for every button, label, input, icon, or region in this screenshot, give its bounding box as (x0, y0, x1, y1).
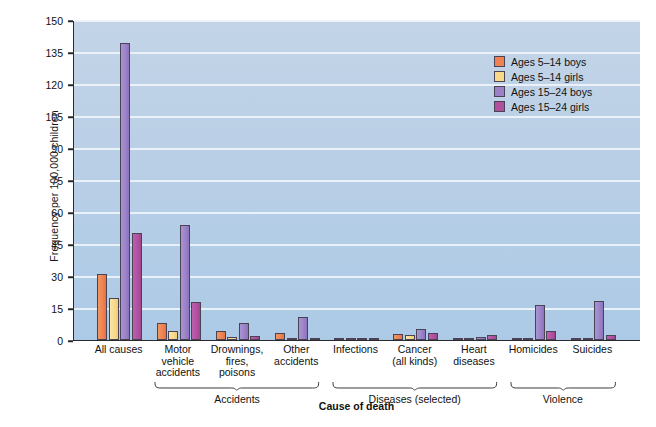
bar (606, 335, 616, 340)
bar (180, 225, 190, 340)
bar-group (216, 21, 261, 340)
y-axis-tick-label: 45 (51, 239, 63, 251)
bar-group (453, 21, 498, 340)
bar (287, 338, 297, 340)
legend-item-label: Ages 5–14 girls (511, 71, 583, 83)
legend-item[interactable]: Ages 15–24 boys (494, 85, 592, 98)
y-axis-tick-label: 150 (45, 15, 63, 27)
legend-swatch-icon (494, 56, 505, 67)
legend-swatch-icon (494, 86, 505, 97)
bar (227, 337, 237, 340)
bar (97, 274, 107, 340)
bar-group (275, 21, 320, 340)
bar (191, 302, 201, 340)
y-axis-tick-label: 105 (45, 111, 63, 123)
bar (298, 317, 308, 340)
chart-legend: Ages 5–14 boysAges 5–14 girlsAges 15–24 … (494, 55, 592, 113)
bar (168, 331, 178, 340)
group-bracket: Violence (510, 382, 616, 391)
legend-item-label: Ages 15–24 girls (511, 101, 589, 113)
group-bracket: Diseases (selected) (332, 382, 498, 391)
bar (512, 338, 522, 340)
bar (157, 323, 167, 340)
y-axis-tick-label: 90 (51, 143, 63, 155)
bar (416, 329, 426, 340)
bar (393, 334, 403, 340)
y-axis-tick-label: 60 (51, 207, 63, 219)
bar (109, 298, 119, 340)
legend-swatch-icon (494, 101, 505, 112)
chart-figure: Frequency per 100,000 children 015304560… (0, 0, 656, 427)
legend-item[interactable]: Ages 5–14 girls (494, 70, 592, 83)
legend-item-label: Ages 5–14 boys (511, 56, 586, 68)
category-group-brackets: AccidentsDiseases (selected)Violence (73, 344, 640, 424)
bar-group (157, 21, 202, 340)
legend-item-label: Ages 15–24 boys (511, 86, 592, 98)
bar (571, 338, 581, 340)
bar (535, 305, 545, 340)
bar (523, 338, 533, 340)
bar (405, 335, 415, 340)
bracket-curly-icon (510, 382, 616, 391)
bar (453, 338, 463, 340)
bar (346, 338, 356, 340)
bar (476, 337, 486, 340)
bar (216, 331, 226, 340)
y-axis-tick-label: 0 (57, 335, 63, 347)
bar (546, 331, 556, 340)
y-axis-tick-label: 75 (51, 175, 63, 187)
y-axis-tick-label: 15 (51, 303, 63, 315)
bar-group (334, 21, 379, 340)
bar (120, 43, 130, 340)
bar (275, 333, 285, 340)
y-axis-tick-label: 120 (45, 79, 63, 91)
bar (310, 338, 320, 340)
bar (239, 323, 249, 340)
legend-item[interactable]: Ages 5–14 boys (494, 55, 592, 68)
bracket-curly-icon (332, 382, 498, 391)
bar-group (97, 21, 142, 340)
bar (428, 333, 438, 340)
y-axis-tick-label: 30 (51, 271, 63, 283)
bar (464, 338, 474, 340)
bar (487, 335, 497, 340)
bar-group (393, 21, 438, 340)
bar (357, 338, 367, 340)
x-axis-title: Cause of death (73, 400, 640, 412)
bar (250, 336, 260, 340)
bar (334, 338, 344, 340)
y-axis-ticks: 0153045607590105120135150 (0, 21, 73, 341)
bar (132, 233, 142, 340)
legend-item[interactable]: Ages 15–24 girls (494, 100, 592, 113)
y-axis-tick-label: 135 (45, 47, 63, 59)
bar (583, 338, 593, 340)
bracket-curly-icon (154, 382, 320, 391)
legend-swatch-icon (494, 71, 505, 82)
group-bracket: Accidents (154, 382, 320, 391)
bar (369, 338, 379, 340)
bar (594, 301, 604, 340)
